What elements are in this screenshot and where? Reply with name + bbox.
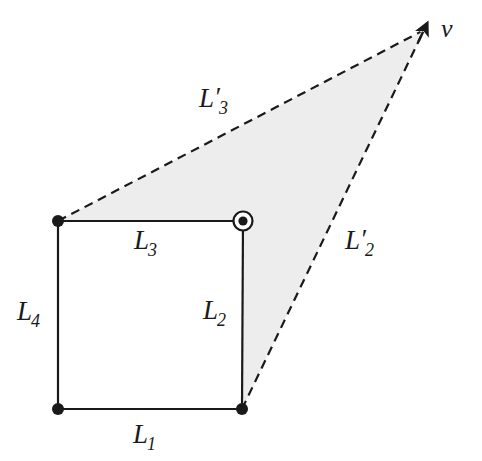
label-vanishing-point: v (441, 16, 453, 42)
label-L4: L4 (17, 298, 41, 325)
label-L4-subscript: 4 (31, 311, 40, 331)
label-L1-subscript: 1 (147, 434, 156, 454)
label-L2-prime: L′2 (345, 227, 375, 254)
label-L2-base: L (203, 295, 218, 325)
marked-vertex-dot (238, 216, 247, 225)
label-L2: L2 (203, 297, 227, 324)
vertex-dot-top-left (52, 215, 64, 227)
label-v-base: v (441, 14, 453, 43)
label-L3-subscript: 3 (148, 240, 157, 260)
label-L3-prime: L′3 (199, 85, 229, 112)
label-L3p-base: L (199, 83, 214, 113)
vertex-dot-bottom-right (236, 403, 248, 415)
vertex-dot-bottom-left (52, 403, 64, 415)
perspective-diagram-svg (0, 0, 482, 461)
figure-canvas: L1 L2 L3 L4 L′2 L′3 v (0, 0, 482, 461)
solid-edge-L2 (242, 221, 243, 409)
label-L3: L3 (134, 227, 158, 254)
label-L4-base: L (17, 296, 32, 326)
label-L1: L1 (133, 421, 157, 448)
label-L2-subscript: 2 (217, 310, 226, 330)
label-L2p-subscript: 2 (365, 240, 374, 260)
label-L1-base: L (133, 419, 148, 449)
label-L3p-subscript: 3 (219, 98, 228, 118)
label-L3-base: L (134, 225, 149, 255)
label-L2p-base: L (345, 225, 360, 255)
